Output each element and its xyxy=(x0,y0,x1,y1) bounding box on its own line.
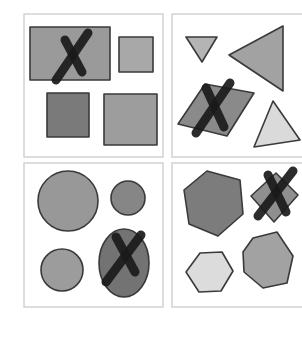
medium-circle-shape xyxy=(41,249,83,291)
small-circle-shape xyxy=(111,181,145,215)
puzzle-figure xyxy=(0,0,302,345)
dark-square-shape xyxy=(47,93,89,137)
panel-bottom-left xyxy=(24,163,163,307)
panel-top-right xyxy=(172,14,302,157)
medium-square-shape xyxy=(104,94,157,145)
panel-top-left xyxy=(24,14,163,157)
panel-bottom-right xyxy=(172,163,302,307)
panels-layer xyxy=(24,14,302,307)
small-square-shape xyxy=(119,37,153,72)
large-circle-shape xyxy=(38,171,98,231)
